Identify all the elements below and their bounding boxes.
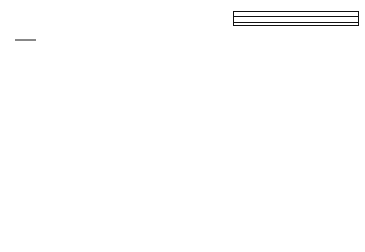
chart-canvas: [0, 0, 365, 252]
buffer-row-reservoir-volume: [287, 23, 322, 26]
buffer-table-grid: [234, 17, 358, 25]
ratio-panel-ylabel: [0, 0, 36, 40]
buffer-row-reservoir-label: [234, 23, 287, 26]
buffer-row-reservoir: [234, 23, 358, 26]
chromatography-figure: [0, 0, 365, 252]
buffer-table: [233, 11, 359, 26]
buffer-row-reservoir-conc: [323, 23, 358, 26]
